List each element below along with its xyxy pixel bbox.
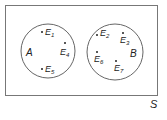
point-e2 — [96, 34, 98, 36]
point-e5 — [41, 68, 43, 70]
venn-diagram: A B S E1 E4 E5 E2 E3 E6 E7 — [0, 0, 167, 120]
element-e7: E7 — [114, 63, 124, 74]
point-e4 — [64, 42, 66, 44]
point-e6 — [96, 51, 98, 53]
element-e4: E4 — [60, 47, 70, 58]
element-e1: E1 — [45, 27, 54, 38]
point-e3 — [122, 32, 124, 34]
set-b-label: B — [130, 48, 137, 59]
element-e6: E6 — [94, 54, 104, 65]
point-e1 — [41, 31, 43, 33]
set-a-label: A — [25, 47, 33, 58]
element-e5: E5 — [45, 64, 55, 75]
point-e7 — [115, 60, 117, 62]
universe-label: S — [150, 98, 158, 110]
element-e2: E2 — [100, 28, 110, 39]
element-e3: E3 — [120, 35, 130, 46]
